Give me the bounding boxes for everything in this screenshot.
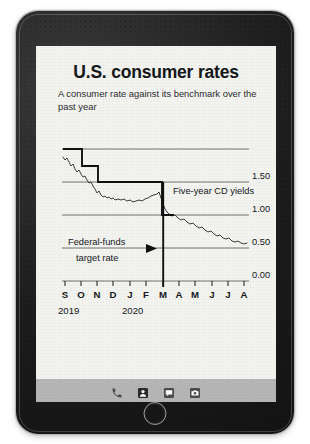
chart-x-ticks [65, 281, 244, 286]
series-cd-yields [63, 157, 247, 244]
xtick-0: S [62, 289, 69, 300]
cd-yields-label: Five-year CD yields [173, 186, 254, 196]
home-button[interactable] [144, 402, 167, 425]
ytick-0.50: 0.50 [252, 237, 270, 247]
ytick-0.00: 0.00 [252, 270, 270, 280]
xtick-6: M [159, 289, 167, 300]
ytick-1.00: 1.00 [252, 204, 270, 214]
chart-year-labels: 2019 2020 [58, 305, 143, 316]
xtick-5: F [143, 289, 149, 300]
chart-y-tick-labels: 2.00% 1.50 1.00 0.50 0.00 [252, 146, 276, 280]
xtick-9: J [209, 289, 214, 300]
year-label-2019: 2019 [58, 305, 79, 316]
messages-icon[interactable] [163, 385, 175, 397]
xtick-1: O [77, 289, 85, 300]
fed-funds-arrow-icon [146, 244, 157, 253]
xtick-2: N [94, 289, 101, 300]
chart-x-tick-labels: S O N D J F M A M J J A [62, 289, 248, 300]
page-subtitle: A consumer rate against its benchmark ov… [58, 88, 258, 113]
tablet-device: U.S. consumer rates A consumer rate agai… [16, 11, 294, 434]
xtick-7: A [176, 289, 183, 300]
ytick-2.00: 2.00% [252, 146, 276, 148]
camera-icon[interactable] [189, 385, 201, 397]
chart-plot-area: 2.00% 1.50 1.00 0.50 0.00 Five-year CD y… [36, 146, 276, 316]
tablet-screen[interactable]: U.S. consumer rates A consumer rate agai… [36, 46, 276, 402]
ytick-1.50: 1.50 [252, 171, 270, 181]
xtick-4: J [127, 289, 132, 300]
xtick-8: M [191, 289, 199, 300]
app-dock [36, 379, 276, 402]
year-label-2020: 2020 [122, 305, 143, 316]
rates-line-chart: 2.00% 1.50 1.00 0.50 0.00 Five-year CD y… [36, 146, 276, 316]
fed-funds-label-line1: Federal-funds [68, 237, 126, 247]
xtick-11: A [241, 289, 248, 300]
fed-funds-label-line2: target rate [76, 253, 118, 263]
xtick-3: D [110, 289, 117, 300]
contacts-icon[interactable] [137, 385, 149, 397]
page-title: U.S. consumer rates [73, 62, 238, 83]
article-card: U.S. consumer rates A consumer rate agai… [36, 46, 276, 361]
xtick-10: J [225, 289, 230, 300]
phone-icon[interactable] [111, 385, 123, 397]
